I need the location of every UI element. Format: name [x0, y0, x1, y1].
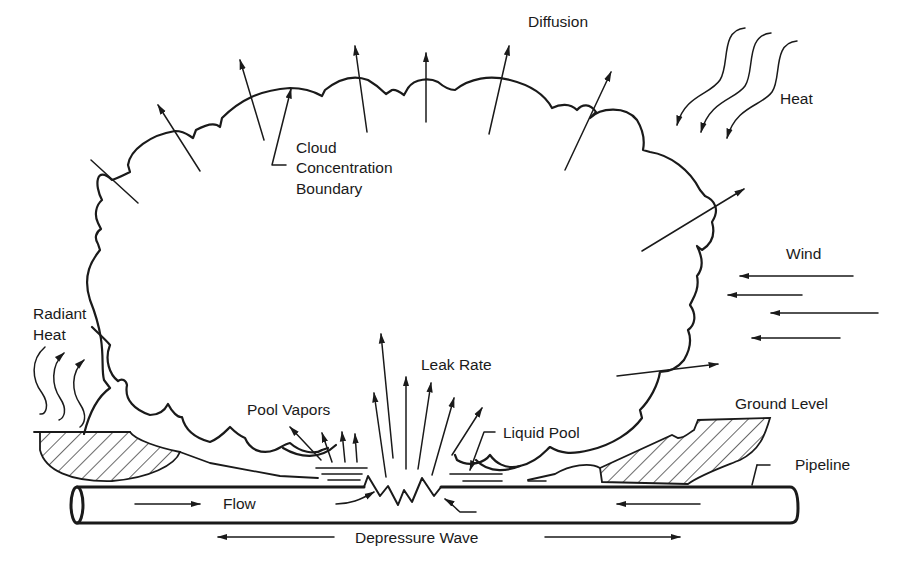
pool-vapor-arrows	[290, 427, 357, 462]
rupture-inflow-arrow	[336, 492, 374, 504]
pipeline-rupture	[364, 476, 441, 505]
left-mound-hatched	[40, 432, 180, 481]
label-ground-level: Ground Level	[735, 395, 828, 412]
label-cloud-line-2: Concentration	[296, 159, 393, 176]
heat-waves	[677, 28, 797, 138]
diffusion-arrow	[617, 364, 718, 376]
label-liquid-pool: Liquid Pool	[503, 424, 580, 441]
leak-arrow	[418, 383, 431, 469]
wind-arrows	[728, 276, 878, 338]
radiant-heat-icon	[54, 353, 65, 420]
pipeline-leader	[752, 465, 757, 485]
label-radiant-heat-2: Heat	[33, 326, 66, 343]
label-heat: Heat	[780, 90, 813, 107]
label-wind: Wind	[786, 245, 821, 262]
rupture-inflow-arrow	[445, 499, 476, 512]
leak-arrow	[381, 334, 393, 458]
label-pool-vapors: Pool Vapors	[247, 401, 331, 418]
cloud-boundary-leader	[272, 89, 291, 165]
diffusion-arrow	[355, 46, 367, 132]
diffusion-arrow	[565, 72, 611, 170]
label-diffusion: Diffusion	[528, 13, 588, 30]
label-depressure-wave: Depressure Wave	[355, 529, 478, 546]
right-mound-hatched	[600, 418, 770, 484]
pool-vapor-arrow	[342, 432, 345, 462]
cloud-boundary-outline	[84, 78, 716, 467]
liquid-pool-right	[450, 474, 502, 481]
ground-slope-left	[180, 452, 318, 478]
radiant-heat-waves	[34, 347, 84, 427]
label-cloud-line-1: Cloud	[296, 139, 337, 156]
diffusion-arrows	[91, 46, 744, 376]
label-leak-rate: Leak Rate	[421, 356, 492, 373]
radiant-heat-icon	[34, 347, 46, 414]
ground-slope-right	[528, 465, 600, 480]
radiant-heat-icon	[74, 360, 85, 427]
left-ground-mound	[34, 432, 318, 481]
heat-wave-icon	[701, 33, 771, 132]
pipeline-open-end	[71, 487, 83, 523]
diffusion-arrow	[642, 189, 744, 251]
diffusion-arrow	[489, 46, 509, 134]
label-flow: Flow	[223, 495, 257, 512]
label-cloud-line-3: Boundary	[296, 180, 363, 197]
pool-vapor-arrow	[355, 434, 357, 462]
heat-wave-icon	[677, 28, 745, 125]
liquid-pool-left	[316, 468, 367, 480]
pipeline-leak-diagram: Diffusion Heat Cloud Concentration Bound…	[0, 0, 901, 568]
pool-vapor-arrow	[322, 433, 332, 462]
leak-arrow	[432, 398, 454, 475]
label-pipeline: Pipeline	[795, 456, 850, 473]
label-radiant-heat-1: Radiant	[33, 305, 87, 322]
leak-arrow	[374, 393, 386, 477]
